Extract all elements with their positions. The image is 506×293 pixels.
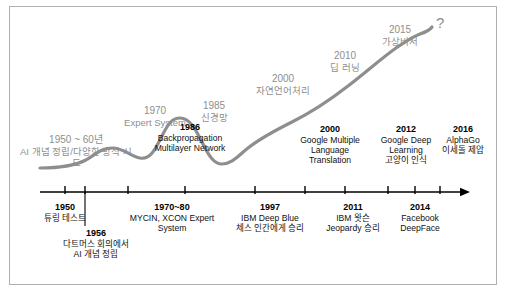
lower-label-year-0: 1986: [130, 122, 250, 133]
upper-label-text-5: 가상비서: [340, 36, 460, 47]
upper-label-0: 1950 ~ 60년AI 개념 정립/다양한 방식 시도: [16, 134, 136, 168]
lower-label-0: 1986Backpropagation Multilayer Network: [130, 122, 250, 153]
question-mark-label: ?: [436, 14, 444, 31]
lower-label-text-0: Backpropagation Multilayer Network: [130, 133, 250, 153]
lower-label-3: 2016AlphaGo 이세돌 제압: [403, 124, 506, 155]
upper-label-year-4: 2010: [285, 50, 405, 62]
bottom-label-text-0: 튜링 테스트: [5, 213, 125, 223]
upper-label-4: 2010딥 러닝: [285, 50, 405, 73]
bottom-label-text-5: Facebook DeepFace: [360, 213, 480, 233]
upper-label-text-3: 자연언어처리: [223, 85, 343, 96]
upper-label-2: 1985신경망: [154, 100, 274, 123]
upper-label-3: 2000자연언어처리: [223, 73, 343, 96]
bottom-label-5: 2014Facebook DeepFace: [360, 202, 480, 233]
upper-label-text-4: 딥 러닝: [285, 62, 405, 73]
bottom-label-0: 1950튜링 테스트: [5, 202, 125, 223]
bottom-label-text-1: 다트머스 회의에서 AI 개념 정립: [36, 239, 156, 259]
upper-label-year-0: 1950 ~ 60년: [16, 134, 136, 146]
infographic-root: 1950 ~ 60년AI 개념 정립/다양한 방식 시도1970Expert S…: [0, 0, 506, 293]
bottom-label-year-5: 2014: [360, 202, 480, 213]
upper-label-year-3: 2000: [223, 73, 343, 85]
axis-arrowhead: [460, 188, 470, 196]
upper-label-year-2: 1985: [154, 100, 274, 112]
lower-label-text-3: AlphaGo 이세돌 제압: [403, 135, 506, 155]
bottom-label-year-0: 1950: [5, 202, 125, 213]
lower-label-year-3: 2016: [403, 124, 506, 135]
upper-label-text-0: AI 개념 정립/다양한 방식 시도: [16, 146, 136, 168]
